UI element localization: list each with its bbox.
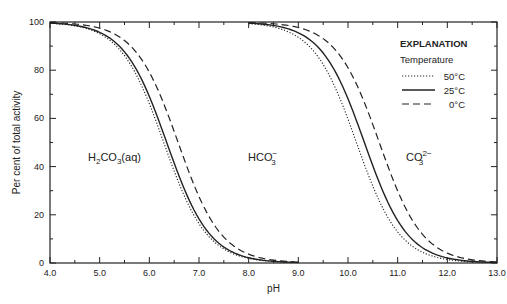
legend-label: 25°C (444, 85, 465, 96)
legend-title: EXPLANATION (400, 38, 468, 49)
x-tick-label: 4.0 (44, 268, 57, 278)
curve-dashed (50, 23, 298, 262)
x-tick-label: 8.0 (242, 268, 255, 278)
y-tick-label: 100 (29, 17, 44, 27)
curve-dotted (249, 24, 497, 263)
species-label-h2co3: H2CO3(aq) (88, 151, 141, 166)
curve-solid (50, 23, 298, 262)
y-tick-label: 60 (34, 113, 44, 123)
x-tick-label: 7.0 (193, 268, 206, 278)
x-tick-label: 13.0 (488, 268, 506, 278)
species-label-co3: CO2−3 (406, 149, 432, 167)
carbonate-speciation-chart: 4.05.06.07.08.09.010.011.012.013.0020406… (0, 0, 507, 304)
y-tick-label: 40 (34, 162, 44, 172)
x-tick-label: 10.0 (339, 268, 357, 278)
y-tick-label: 0 (39, 258, 44, 268)
y-tick-label: 20 (34, 210, 44, 220)
species-labels: H2CO3(aq) HCO−3 CO2−3 (88, 149, 432, 167)
legend-label: 0°C (449, 99, 465, 110)
x-tick-label: 6.0 (143, 268, 156, 278)
legend: EXPLANATIONTemperature50°C25°C0°C (400, 38, 468, 110)
chart-svg: 4.05.06.07.08.09.010.011.012.013.0020406… (0, 0, 507, 304)
curve-solid (249, 23, 497, 262)
x-tick-label: 12.0 (439, 268, 457, 278)
legend-label: 50°C (444, 71, 465, 82)
legend-subtitle: Temperature (400, 54, 453, 65)
curve-dashed (249, 23, 497, 262)
species-label-hco3: HCO−3 (248, 149, 277, 167)
y-axis-title: Per cent of total activity (11, 91, 22, 194)
x-tick-label: 5.0 (93, 268, 106, 278)
y-tick-label: 80 (34, 65, 44, 75)
curve-dotted (50, 23, 298, 262)
x-tick-label: 9.0 (292, 268, 305, 278)
x-tick-label: 11.0 (389, 268, 406, 278)
x-axis-title: pH (267, 283, 280, 294)
